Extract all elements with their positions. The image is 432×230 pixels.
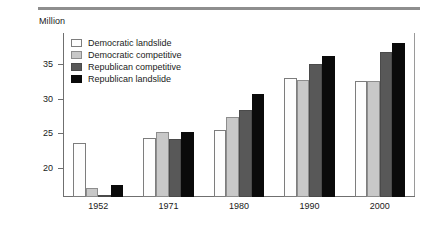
legend-item: Republican landslide xyxy=(71,73,182,84)
legend-item-label: Republican competitive xyxy=(88,62,181,72)
legend-item-label: Democratic competitive xyxy=(88,50,182,60)
bar xyxy=(226,117,239,197)
bar xyxy=(322,56,335,197)
bar xyxy=(392,43,405,197)
legend-swatch-icon xyxy=(71,75,82,83)
bar xyxy=(309,64,322,197)
y-axis-tick-label: 30 xyxy=(13,94,53,104)
y-axis-tick-label: 25 xyxy=(13,128,53,138)
x-axis-tick-label: 1971 xyxy=(159,201,179,211)
bar xyxy=(181,132,194,197)
legend-item: Democratic competitive xyxy=(71,49,182,60)
legend-item-label: Republican landslide xyxy=(88,74,171,84)
bar xyxy=(111,185,124,197)
x-axis-tick-label: 1990 xyxy=(299,201,319,211)
bar xyxy=(214,130,227,197)
legend-swatch-icon xyxy=(71,63,82,71)
x-axis-tick-label: 1952 xyxy=(88,201,108,211)
bar xyxy=(239,110,252,197)
bar xyxy=(252,94,265,197)
bar xyxy=(156,132,169,197)
bar xyxy=(98,195,111,197)
legend-swatch-icon xyxy=(71,51,82,59)
x-axis-tick-label: 2000 xyxy=(370,201,390,211)
y-axis-unit-label: Million xyxy=(39,16,65,26)
legend-item: Republican competitive xyxy=(71,61,182,72)
bar xyxy=(73,143,86,197)
chart-figure: Million 20253035 19521971198019902000 De… xyxy=(0,0,432,230)
header-rule xyxy=(38,7,420,10)
bar xyxy=(367,81,380,197)
y-axis-tick-label: 35 xyxy=(13,59,53,69)
legend-swatch-icon xyxy=(71,39,82,47)
bar xyxy=(297,80,310,197)
bar xyxy=(355,81,368,197)
y-axis-tick-label: 20 xyxy=(13,163,53,173)
chart-legend: Democratic landslideDemocratic competiti… xyxy=(71,37,182,85)
legend-item: Democratic landslide xyxy=(71,37,182,48)
legend-item-label: Democratic landslide xyxy=(88,38,172,48)
x-axis-tick-label: 1980 xyxy=(229,201,249,211)
bar xyxy=(169,139,182,197)
bar xyxy=(380,52,393,197)
bar xyxy=(86,188,99,197)
bar xyxy=(284,78,297,197)
bar xyxy=(143,138,156,197)
